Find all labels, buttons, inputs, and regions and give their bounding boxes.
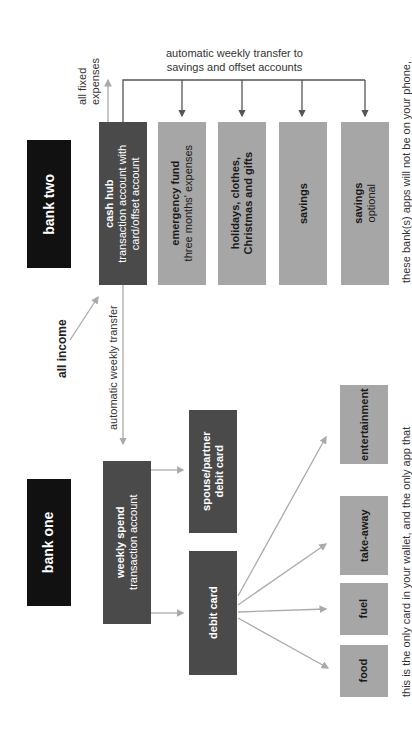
all-income-label: all income bbox=[55, 319, 69, 378]
savings-box: savings bbox=[279, 122, 327, 285]
emergency-fund-box: emergency fundthree months' expenses bbox=[158, 122, 206, 285]
category-fuel: fuel bbox=[340, 583, 388, 635]
debit-card-box: debit card bbox=[189, 551, 237, 675]
partner-debit-card-box: spouse/partnerdebit card bbox=[189, 410, 237, 533]
category-food: food bbox=[340, 645, 388, 697]
holidays-box: holidays, clothes,Christmas and gifts bbox=[218, 122, 266, 285]
bank-one-label: bank one bbox=[27, 479, 71, 606]
category-take-away: take-away bbox=[340, 496, 388, 575]
category-entertainment: entertainment bbox=[340, 385, 388, 464]
bank-two-label: bank two bbox=[27, 140, 71, 268]
weekly-spend-box: weekly spendtransaction account bbox=[103, 461, 151, 624]
bank-two-note: these bank(s) apps will not be on your p… bbox=[400, 61, 412, 283]
cash-hub-box: cash hubtransaction account withcard/off… bbox=[99, 122, 147, 285]
savings-transfer-label: automatic weekly transfer tosavings and … bbox=[166, 47, 303, 75]
bank-one-note: this is the only card in your wallet, an… bbox=[400, 427, 412, 697]
savings-optional-box: savingsoptional bbox=[341, 122, 389, 285]
fixed-expenses-label: all fixedexpenses bbox=[76, 58, 102, 105]
weekly-transfer-label: automatic weekly transfer bbox=[107, 305, 119, 430]
